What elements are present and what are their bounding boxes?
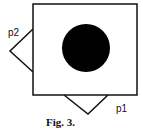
figure-caption: Fig. 3. <box>46 116 75 128</box>
label-p1: p1 <box>116 103 128 114</box>
label-p2: p2 <box>8 27 20 38</box>
black-disc <box>62 24 110 72</box>
p1-triangle <box>64 95 108 114</box>
figure-diagram: p2 p1 Fig. 3. <box>0 0 143 130</box>
